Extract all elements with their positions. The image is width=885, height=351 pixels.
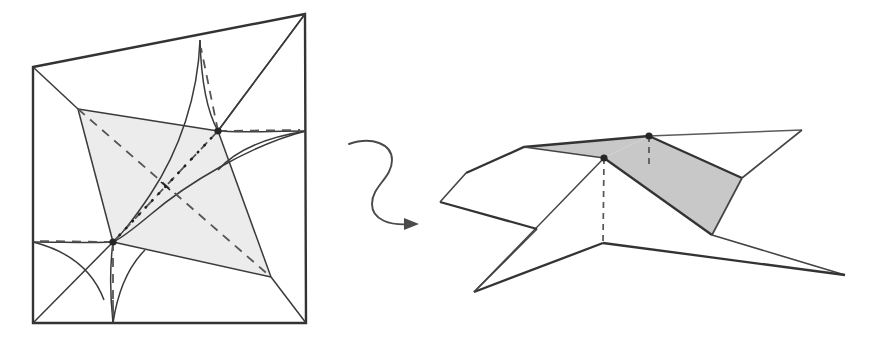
arc-right-to-node [218,131,306,132]
node-lower-left [109,238,116,245]
figure-canvas [0,0,885,351]
node-upper-right [214,127,221,134]
apex-high-vertex [645,132,652,139]
apex-low-vertex [600,154,607,161]
geometric-figure [0,0,885,351]
